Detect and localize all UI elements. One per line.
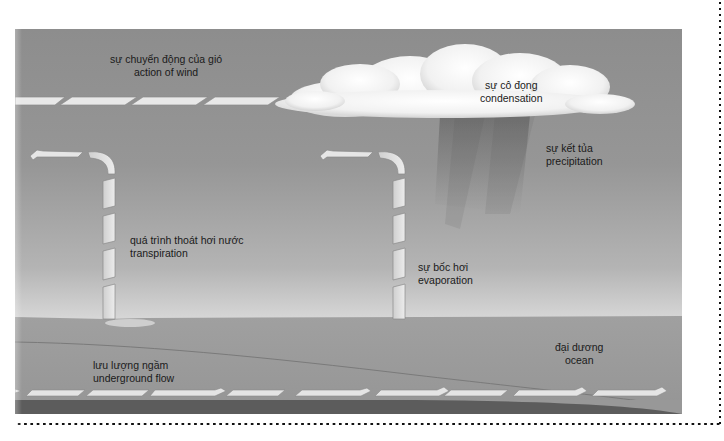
ocean-label-en: ocean [555,354,603,367]
underground-flow-label: lưu lượng ngầm underground flow [93,359,174,385]
condensation-label-en: condensation [480,92,542,105]
transpiration-arrow-icon [30,150,115,319]
wind-label: sự chuyển động của gió action of wind [110,53,222,79]
wind-label-vi: sự chuyển động của gió [110,53,222,66]
cloud-icon [275,44,635,118]
underground-flow-label-vi: lưu lượng ngầm [93,359,174,372]
wind-arrow-icon [15,97,280,105]
transpiration-label-vi: quá trình thoát hơi nước [130,234,244,247]
evaporation-label: sự bốc hơi evaporation [418,261,473,287]
evaporation-label-en: evaporation [418,274,473,287]
water-cycle-diagram: sự chuyển động của gió action of wind sự… [15,29,682,414]
precipitation-label-vi: sự kết tủa [546,142,603,155]
transpiration-label: quá trình thoát hơi nước transpiration [130,234,244,260]
ocean-label: đại dương ocean [555,341,603,367]
transpiration-label-en: transpiration [130,247,244,260]
evaporation-arrow-icon [320,150,405,319]
dotted-frame-bottom [16,422,722,426]
precipitation-label-en: precipitation [546,155,603,168]
precipitation-label: sự kết tủa precipitation [546,142,603,168]
condensation-label: sự cô đọng condensation [480,79,542,105]
condensation-label-vi: sự cô đọng [480,79,542,92]
rain-shading-icon [435,115,535,229]
underground-flow-label-en: underground flow [93,372,174,385]
evaporation-label-vi: sự bốc hơi [418,261,473,274]
wind-label-en: action of wind [110,66,222,79]
ocean-label-vi: đại dương [555,341,603,354]
dotted-frame-right [718,0,722,427]
